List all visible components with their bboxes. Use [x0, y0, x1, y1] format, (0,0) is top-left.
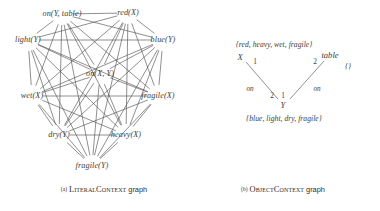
- object-set-table-set: {}: [345, 62, 351, 71]
- caption-suffix-object-context: graph: [306, 185, 325, 194]
- object-context-edge-layer: [0, 0, 380, 211]
- figure-container: on(Y, table)red(X)blue(Y)fragile(X)heavy…: [0, 0, 380, 211]
- object-node-x: X: [237, 52, 242, 62]
- object-node-table: table: [321, 50, 338, 60]
- object-edge-name-edge-x-y: on: [246, 85, 253, 93]
- object-edge-from-port-edge-x-y: 1: [253, 57, 257, 66]
- object-edge-to-port-edge-x-y: 2: [270, 91, 274, 100]
- object-edge-name-edge-table-y: on: [313, 85, 320, 93]
- caption-name-literal-context: LiteralContext: [69, 185, 126, 194]
- caption-suffix-literal-context: graph: [128, 185, 147, 194]
- caption-tag-literal-context: (a): [61, 186, 67, 192]
- object-edge-edge-table-y: [290, 61, 324, 99]
- object-node-y: Y: [281, 100, 286, 110]
- caption-name-object-context: ObjectContext: [250, 185, 305, 194]
- object-set-x-set: {red, heavy, wet, fragile}: [236, 40, 313, 49]
- caption-tag-object-context: (b): [241, 186, 248, 192]
- caption-object-context: (b) ObjectContext graph: [241, 185, 325, 194]
- object-set-y-set: {blue, light, dry, fragile}: [246, 114, 322, 123]
- object-edge-from-port-edge-table-y: 2: [313, 57, 317, 66]
- object-edge-to-port-edge-table-y: 1: [281, 91, 285, 100]
- caption-literal-context: (a) LiteralContext graph: [61, 185, 147, 194]
